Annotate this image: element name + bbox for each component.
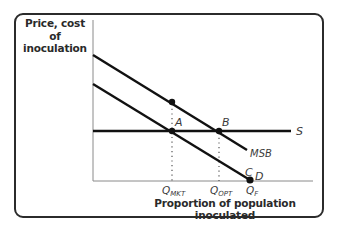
point-a-label: A — [174, 116, 183, 129]
point-b-label: B — [222, 116, 230, 129]
q-mkt-base: Q — [162, 184, 170, 196]
x-axis-title: Proportion of population inoculated — [130, 197, 320, 221]
q-opt-label: QOPT — [210, 184, 233, 198]
q-f-label: QF — [246, 184, 259, 198]
supply-demand-chart: A B C D MSB S QMKT QOPT QF — [0, 0, 337, 228]
q-f-base: Q — [246, 184, 254, 196]
q-mkt-label: QMKT — [162, 184, 186, 198]
q-opt-base: Q — [210, 184, 218, 196]
point-c-label: C — [245, 166, 253, 179]
msb-point-at-qmkt — [169, 99, 175, 105]
demand-curve-label: D — [255, 170, 263, 183]
supply-curve-label: S — [296, 125, 303, 138]
msb-curve-label: MSB — [250, 148, 272, 159]
